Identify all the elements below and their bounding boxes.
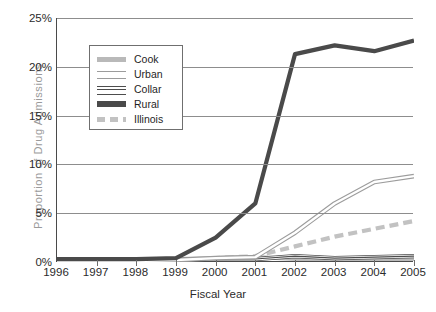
legend-label-cook: Cook (134, 54, 159, 65)
legend-swatch-collar (97, 84, 126, 95)
legend-label-urban: Urban (134, 69, 163, 80)
legend-label-rural: Rural (134, 99, 159, 110)
legend-swatch-cook (97, 54, 126, 65)
chart-figure: Proportion of Drug Admissions 0%5%10%15%… (0, 0, 436, 312)
legend-swatch-rural (97, 99, 126, 110)
legend-label-illinois: Illinois (134, 114, 163, 125)
x-tick-2002: 2002 (281, 266, 307, 278)
legend-item-urban: Urban (90, 67, 182, 82)
legend-item-cook: Cook (90, 52, 182, 67)
x-tick-2003: 2003 (321, 266, 347, 278)
legend-item-illinois: Illinois (90, 112, 182, 127)
x-tick-2004: 2004 (361, 266, 387, 278)
x-axis-tick-labels: 1996199719981999200020012002200320042005 (0, 0, 436, 312)
x-tick-1998: 1998 (123, 266, 149, 278)
legend-swatch-illinois (97, 114, 126, 125)
chart-legend: Cook Urban Collar Rural Illinois (89, 45, 183, 130)
x-tick-2001: 2001 (242, 266, 268, 278)
x-axis-title: Fiscal Year (0, 288, 436, 300)
legend-item-collar: Collar (90, 82, 182, 97)
x-tick-2000: 2000 (202, 266, 228, 278)
legend-swatch-urban (97, 69, 126, 80)
x-tick-1999: 1999 (162, 266, 188, 278)
x-tick-2005: 2005 (400, 266, 426, 278)
legend-item-rural: Rural (90, 97, 182, 112)
x-tick-1996: 1996 (43, 266, 69, 278)
x-tick-1997: 1997 (83, 266, 109, 278)
legend-label-collar: Collar (134, 84, 161, 95)
